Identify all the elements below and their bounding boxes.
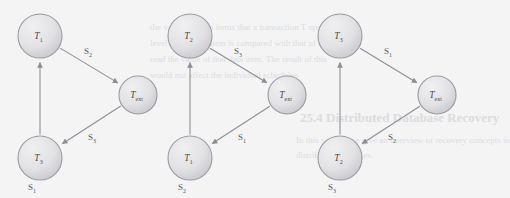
transaction-node — [119, 76, 157, 114]
transaction-node — [18, 14, 62, 58]
transaction-node — [318, 136, 362, 180]
transaction-node-subscript: 1 — [40, 37, 43, 43]
transaction-node-subscript: 1 — [190, 159, 193, 165]
transaction-node-subscript: 2 — [190, 37, 193, 43]
edge-label: S1 — [238, 132, 246, 144]
transaction-node — [418, 76, 456, 114]
schedule-caption: S3 — [328, 182, 336, 194]
transaction-node-subscript: ext — [284, 96, 292, 102]
transaction-node-subscript: ext — [135, 96, 143, 102]
edge-label: S3 — [88, 132, 96, 144]
transaction-node-subscript: 2 — [340, 159, 343, 165]
schedule-caption-subscript: 1 — [33, 188, 36, 194]
transaction-node — [268, 76, 306, 114]
edge-label: S2 — [388, 132, 396, 144]
edge-label: S2 — [84, 46, 92, 58]
edge-label-subscript: 2 — [393, 138, 396, 144]
transaction-node — [168, 136, 212, 180]
schedule-s3: S1S2T3TextT2S3 — [318, 14, 456, 194]
schedule-s2: S3S1T2TextT1S2 — [168, 14, 306, 194]
schedule-s1: S2S3T1TextT3S1 — [18, 14, 157, 194]
edge-label-subscript: 1 — [389, 52, 392, 58]
edge-label-subscript: 3 — [93, 138, 96, 144]
transaction-node-subscript: 3 — [340, 37, 343, 43]
edge-label-subscript: 3 — [239, 52, 242, 58]
transaction-node-subscript: ext — [434, 96, 442, 102]
edge-label-subscript: 1 — [243, 138, 246, 144]
edge-label: S1 — [384, 46, 392, 58]
transaction-node — [168, 14, 212, 58]
transaction-node — [318, 14, 362, 58]
schedule-caption: S1 — [28, 182, 36, 194]
edge-label-subscript: 2 — [89, 52, 92, 58]
transaction-node — [18, 136, 62, 180]
schedule-caption-subscript: 2 — [183, 188, 186, 194]
schedule-caption: S2 — [178, 182, 186, 194]
schedule-caption-subscript: 3 — [333, 188, 336, 194]
edge-label: S3 — [234, 46, 242, 58]
transaction-node-subscript: 3 — [40, 159, 43, 165]
